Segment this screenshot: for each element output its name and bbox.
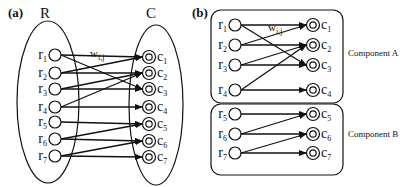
source-node-r3 xyxy=(49,83,61,95)
edge-r4-c2 xyxy=(241,45,306,90)
component-b-label: Component B xyxy=(348,129,398,139)
source-label-r6: r6 xyxy=(218,126,227,143)
set-r-ellipse xyxy=(17,21,79,183)
target-node-c2 xyxy=(143,67,156,80)
target-label-c1: c1 xyxy=(157,49,167,66)
edge-r7-c6 xyxy=(241,134,306,153)
target-node-c5 xyxy=(143,118,156,131)
target-node-c2 xyxy=(307,39,320,52)
source-node-r2 xyxy=(229,39,241,51)
bipartite-diagram: (a) R C r1r2r3r4r5r6r7c1c2c3c4c5c6c7 wi,… xyxy=(0,0,409,187)
source-node-r5 xyxy=(229,108,241,120)
source-label-r7: r7 xyxy=(38,148,47,165)
target-label-c5: c5 xyxy=(157,116,167,133)
edge-r6-c6 xyxy=(61,139,142,141)
target-node-c1 xyxy=(307,19,320,32)
source-node-r1 xyxy=(49,49,61,61)
panel-a: (a) R C r1r2r3r4r5r6r7c1c2c3c4c5c6c7 wi,… xyxy=(8,5,183,185)
source-label-r5: r5 xyxy=(38,114,47,131)
target-node-c7 xyxy=(143,151,156,164)
source-label-r1: r1 xyxy=(38,47,47,64)
target-node-c7 xyxy=(307,147,320,160)
source-node-r6 xyxy=(229,128,241,140)
target-label-c2: c2 xyxy=(157,65,167,82)
source-node-r5 xyxy=(49,116,61,128)
target-node-c4 xyxy=(143,101,156,114)
source-node-r4 xyxy=(229,84,241,96)
set-r-label: R xyxy=(40,5,50,21)
edge-r3-c2 xyxy=(241,45,306,65)
source-label-r5: r5 xyxy=(218,106,227,123)
target-label-c6: c6 xyxy=(157,133,167,150)
edge-weight-label-b: wi,j xyxy=(268,21,282,36)
set-c-label: C xyxy=(146,5,156,21)
target-node-c3 xyxy=(307,59,320,72)
target-label-c1: c1 xyxy=(321,17,331,34)
source-label-r6: r6 xyxy=(38,131,47,148)
set-c-ellipse xyxy=(129,25,183,185)
source-label-r4: r4 xyxy=(218,82,227,99)
edge-r6-c5 xyxy=(241,114,306,134)
panel-a-label: (a) xyxy=(8,5,23,20)
panel-b-label: (b) xyxy=(192,5,208,20)
source-node-r7 xyxy=(49,150,61,162)
source-node-r6 xyxy=(49,133,61,145)
panel-a-edges xyxy=(61,55,142,157)
target-label-c2: c2 xyxy=(321,37,331,54)
source-label-r1: r1 xyxy=(218,17,227,34)
source-label-r2: r2 xyxy=(38,65,47,82)
component-a-label: Component A xyxy=(348,48,399,58)
source-node-r4 xyxy=(49,101,61,113)
source-label-r7: r7 xyxy=(218,145,227,162)
source-label-r3: r3 xyxy=(218,57,227,74)
target-node-c3 xyxy=(143,83,156,96)
target-node-c6 xyxy=(143,135,156,148)
target-label-c4: c4 xyxy=(321,82,331,99)
source-node-r2 xyxy=(49,67,61,79)
target-label-c7: c7 xyxy=(321,145,331,162)
target-label-c3: c3 xyxy=(157,81,167,98)
edge-r7-c7 xyxy=(61,156,142,157)
panel-b: (b) Component A Component B r1r2r3r4c1c2… xyxy=(192,5,399,175)
target-node-c5 xyxy=(307,108,320,121)
target-label-c3: c3 xyxy=(321,57,331,74)
target-label-c7: c7 xyxy=(157,149,167,166)
edge-weight-label-a: wi,j xyxy=(90,47,104,62)
target-node-c1 xyxy=(143,51,156,64)
source-node-r3 xyxy=(229,59,241,71)
source-label-r3: r3 xyxy=(38,81,47,98)
source-label-r2: r2 xyxy=(218,37,227,54)
target-node-c4 xyxy=(307,84,320,97)
target-label-c4: c4 xyxy=(157,99,167,116)
target-label-c5: c5 xyxy=(321,106,331,123)
target-node-c6 xyxy=(307,128,320,141)
target-label-c6: c6 xyxy=(321,126,331,143)
source-node-r7 xyxy=(229,147,241,159)
panel-b-edges xyxy=(241,25,306,153)
source-node-r1 xyxy=(229,19,241,31)
